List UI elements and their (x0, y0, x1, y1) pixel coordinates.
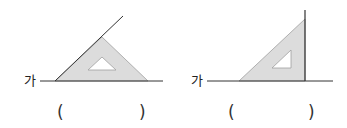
line-label-ga: 가 (191, 74, 203, 88)
figure-1 (40, 16, 163, 81)
triangle-ruler-30-60 (239, 19, 305, 81)
open-paren: ( (57, 103, 64, 121)
open-paren: ( (228, 103, 235, 121)
line-label-ga: 가 (24, 74, 36, 88)
close-paren: ) (308, 103, 315, 121)
close-paren: ) (139, 103, 146, 121)
figures-canvas (0, 0, 347, 128)
figure-2 (207, 10, 333, 81)
